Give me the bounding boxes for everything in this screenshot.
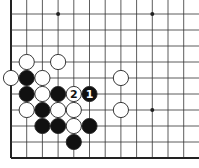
black-stone xyxy=(66,134,81,149)
black-stone xyxy=(51,86,66,101)
white-stone xyxy=(19,102,34,117)
black-stone xyxy=(19,70,34,85)
white-stone xyxy=(35,86,50,101)
black-stone xyxy=(51,118,66,133)
white-stone xyxy=(51,54,66,69)
white-stone xyxy=(51,102,66,117)
black-stone xyxy=(35,102,50,117)
star-point-icon xyxy=(150,12,154,16)
move-number-label: 1 xyxy=(86,88,94,101)
star-point-icon xyxy=(56,12,60,16)
black-stone xyxy=(35,118,50,133)
star-point-icon xyxy=(150,108,154,112)
white-stone xyxy=(66,102,81,117)
move-number-label: 2 xyxy=(70,88,78,101)
black-stone xyxy=(82,118,97,133)
white-stone xyxy=(66,118,81,133)
stones: 21 xyxy=(3,54,128,149)
white-stone: 2 xyxy=(66,86,81,101)
white-stone xyxy=(113,70,128,85)
white-stone xyxy=(19,54,34,69)
white-stone xyxy=(35,70,50,85)
white-stone xyxy=(113,102,128,117)
black-stone xyxy=(19,86,34,101)
go-board: 21 xyxy=(0,0,199,168)
white-stone xyxy=(3,70,18,85)
black-stone: 1 xyxy=(82,86,97,101)
